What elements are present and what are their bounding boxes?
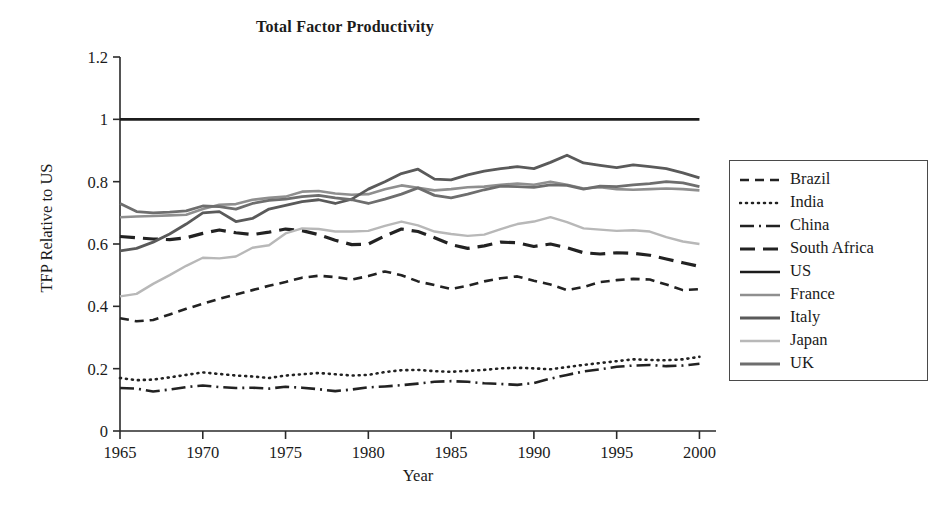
legend-item-us[interactable]: US — [730, 260, 927, 283]
legend-swatch-solid — [739, 334, 781, 348]
legend-swatch-dotted — [739, 196, 781, 210]
legend-swatch-solid — [739, 311, 781, 325]
legend-label: Japan — [790, 332, 828, 349]
legend-swatch-solid — [739, 265, 781, 279]
legend-item-italy[interactable]: Italy — [730, 306, 927, 329]
x-tick-label: 1995 — [600, 443, 633, 462]
legend-item-china[interactable]: China — [730, 214, 927, 237]
legend-label: UK — [790, 355, 814, 372]
x-tick-label: 1970 — [186, 443, 219, 462]
y-tick-label: 0.6 — [87, 235, 108, 254]
legend-item-india[interactable]: India — [730, 191, 927, 214]
data-series-group — [120, 119, 699, 391]
legend-item-japan[interactable]: Japan — [730, 329, 927, 352]
legend-swatch-dashed — [739, 173, 781, 187]
series-line-china — [120, 364, 699, 392]
series-line-japan — [120, 217, 699, 296]
x-tick-label: 1965 — [104, 443, 137, 462]
legend-label: South Africa — [790, 240, 874, 257]
chart-legend: BrazilIndiaChinaSouth AfricaUSFranceItal… — [729, 160, 928, 381]
x-tick-label: 1980 — [352, 443, 385, 462]
axes — [120, 57, 716, 431]
series-line-italy — [120, 155, 699, 251]
y-tick-label: 1.2 — [87, 48, 108, 67]
x-axis-ticks: 19651970197519801985199019952000 — [104, 431, 716, 462]
legend-label: France — [790, 286, 835, 303]
x-tick-label: 1990 — [517, 443, 550, 462]
y-tick-label: 0.8 — [87, 173, 108, 192]
legend-swatch-longdash — [739, 242, 781, 256]
series-line-south-africa — [120, 229, 699, 266]
y-axis-ticks: 00.20.40.60.811.2 — [87, 48, 120, 441]
legend-label: US — [790, 263, 811, 280]
legend-label: China — [790, 217, 829, 234]
legend-label: Brazil — [790, 171, 830, 188]
legend-swatch-dashdot — [739, 219, 781, 233]
x-tick-label: 1975 — [269, 443, 302, 462]
legend-swatch-solid — [739, 357, 781, 371]
x-tick-label: 1985 — [435, 443, 468, 462]
legend-item-south-africa[interactable]: South Africa — [730, 237, 927, 260]
series-line-brazil — [120, 271, 699, 321]
legend-item-uk[interactable]: UK — [730, 352, 927, 375]
x-tick-label: 2000 — [683, 443, 716, 462]
legend-swatch-solid — [739, 288, 781, 302]
chart-figure: Total Factor Productivity TFP Relative t… — [0, 0, 946, 518]
y-tick-label: 0 — [100, 422, 108, 441]
y-tick-label: 0.4 — [87, 297, 108, 316]
y-tick-label: 0.2 — [87, 360, 108, 379]
legend-item-brazil[interactable]: Brazil — [730, 168, 927, 191]
legend-label: India — [790, 194, 824, 211]
legend-label: Italy — [790, 309, 820, 326]
y-tick-label: 1 — [100, 110, 108, 129]
legend-item-france[interactable]: France — [730, 283, 927, 306]
